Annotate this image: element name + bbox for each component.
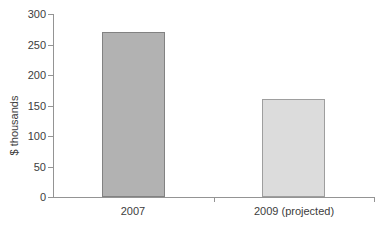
x-tick-mark bbox=[374, 198, 375, 202]
x-tick-mark bbox=[214, 198, 215, 202]
y-axis-line bbox=[53, 14, 54, 198]
y-tick-mark bbox=[48, 167, 53, 168]
y-tick-mark bbox=[48, 14, 53, 15]
bar-2009-projected bbox=[262, 99, 325, 197]
y-tick-label: 50 bbox=[0, 161, 46, 173]
y-tick-mark bbox=[48, 45, 53, 46]
y-tick-label: 100 bbox=[0, 130, 46, 142]
bar-2007 bbox=[102, 32, 165, 197]
y-tick-label: 250 bbox=[0, 39, 46, 51]
y-tick-label: 150 bbox=[0, 100, 46, 112]
y-tick-label: 0 bbox=[0, 191, 46, 203]
y-tick-mark bbox=[48, 75, 53, 76]
y-tick-mark bbox=[48, 136, 53, 137]
y-tick-label: 300 bbox=[0, 8, 46, 20]
x-category-label-2009-projected: 2009 (projected) bbox=[219, 205, 369, 218]
y-tick-label: 200 bbox=[0, 69, 46, 81]
x-category-label-2007: 2007 bbox=[58, 205, 208, 218]
y-tick-mark bbox=[48, 106, 53, 107]
y-tick-mark bbox=[48, 197, 53, 198]
bar-chart-figure: $ thousands 05010015020025030020072009 (… bbox=[0, 0, 382, 228]
